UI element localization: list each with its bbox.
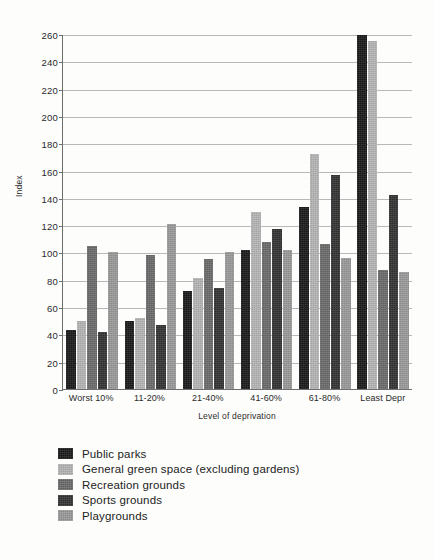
bar bbox=[320, 244, 330, 389]
x-tick-label: 21-40% bbox=[179, 393, 237, 403]
bar bbox=[241, 250, 251, 389]
plot-area bbox=[62, 35, 412, 390]
legend-item: General green space (excluding gardens) bbox=[58, 462, 418, 478]
bar bbox=[368, 41, 378, 389]
y-tick-label: 160 bbox=[28, 166, 58, 177]
bar-group bbox=[354, 35, 412, 389]
x-tick-labels: Worst 10%11-20%21-40%41-60%61-80%Least D… bbox=[62, 393, 412, 403]
chart-legend: Public parksGeneral green space (excludi… bbox=[58, 446, 418, 524]
legend-label: Sports grounds bbox=[82, 494, 162, 506]
bar bbox=[378, 270, 388, 389]
bar bbox=[183, 291, 193, 389]
bar bbox=[66, 330, 76, 389]
y-tick-label: 240 bbox=[28, 57, 58, 68]
bar bbox=[272, 229, 282, 389]
legend-swatch bbox=[58, 464, 73, 475]
legend-label: Public parks bbox=[82, 448, 146, 460]
x-tick-label: 11-20% bbox=[120, 393, 178, 403]
legend-label: General green space (excluding gardens) bbox=[82, 463, 299, 475]
bar bbox=[77, 321, 87, 389]
y-tick-label: 120 bbox=[28, 221, 58, 232]
bar bbox=[299, 207, 309, 389]
y-tick-label: 100 bbox=[28, 248, 58, 259]
legend-swatch bbox=[58, 495, 73, 506]
bar bbox=[193, 278, 203, 389]
legend-item: Sports grounds bbox=[58, 493, 418, 509]
bar-group bbox=[296, 35, 354, 389]
bar bbox=[357, 35, 367, 389]
bar bbox=[225, 252, 235, 389]
legend-swatch bbox=[58, 510, 73, 521]
bar bbox=[167, 224, 177, 389]
legend-swatch bbox=[58, 479, 73, 490]
bar bbox=[108, 252, 118, 389]
legend-label: Playgrounds bbox=[82, 510, 148, 522]
x-tick-label: 61-80% bbox=[295, 393, 353, 403]
bar bbox=[399, 272, 409, 389]
bar bbox=[87, 246, 97, 389]
bar bbox=[98, 332, 108, 389]
y-tick-label: 260 bbox=[28, 30, 58, 41]
bar-group bbox=[179, 35, 237, 389]
bar bbox=[283, 250, 293, 389]
bar-group bbox=[63, 35, 121, 389]
y-tick-label: 180 bbox=[28, 139, 58, 150]
bar bbox=[310, 154, 320, 389]
x-axis-title: Level of deprivation bbox=[62, 411, 412, 421]
legend-item: Recreation grounds bbox=[58, 477, 418, 493]
bar bbox=[389, 195, 399, 389]
y-tick-label: 200 bbox=[28, 111, 58, 122]
legend-label: Recreation grounds bbox=[82, 479, 185, 491]
y-tick-label: 140 bbox=[28, 193, 58, 204]
legend-swatch bbox=[58, 448, 73, 459]
y-tick-label: 0 bbox=[28, 385, 58, 396]
y-tick-label: 40 bbox=[28, 330, 58, 341]
x-tick-label: 41-60% bbox=[237, 393, 295, 403]
y-tick-label: 20 bbox=[28, 357, 58, 368]
bar bbox=[251, 212, 261, 390]
bar bbox=[214, 288, 224, 389]
y-tick-mark bbox=[59, 390, 63, 391]
y-tick-label: 80 bbox=[28, 275, 58, 286]
bar bbox=[262, 242, 272, 389]
bar-group bbox=[121, 35, 179, 389]
bars-layer bbox=[63, 35, 412, 389]
legend-item: Public parks bbox=[58, 446, 418, 462]
y-axis-title: Index bbox=[14, 175, 24, 197]
x-tick-label: Least Depr bbox=[354, 393, 412, 403]
bar bbox=[331, 175, 341, 389]
bar-group bbox=[238, 35, 296, 389]
bar bbox=[146, 255, 156, 389]
legend-item: Playgrounds bbox=[58, 508, 418, 524]
y-tick-label: 220 bbox=[28, 84, 58, 95]
bar bbox=[125, 321, 135, 389]
bar bbox=[204, 259, 214, 389]
bar bbox=[341, 258, 351, 389]
x-tick-label: Worst 10% bbox=[62, 393, 120, 403]
y-tick-label: 60 bbox=[28, 303, 58, 314]
bar-chart-figure: Index 2602402202001801601401201008060402… bbox=[0, 0, 435, 560]
bar bbox=[156, 325, 166, 389]
bar bbox=[135, 318, 145, 389]
